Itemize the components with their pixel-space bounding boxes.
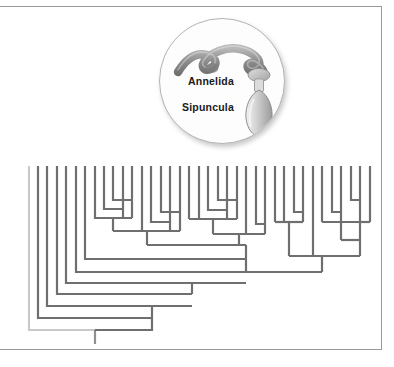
callout-label-annelida: Annelida [188,75,234,87]
callout-label-sipuncula: Sipuncula [182,101,234,113]
figure-canvas: Annelida Sipuncula [0,0,394,367]
taxon-callout-bubble[interactable]: Annelida Sipuncula [159,18,285,144]
tree-branches [38,166,370,330]
peanut-worm-icon [246,69,272,137]
